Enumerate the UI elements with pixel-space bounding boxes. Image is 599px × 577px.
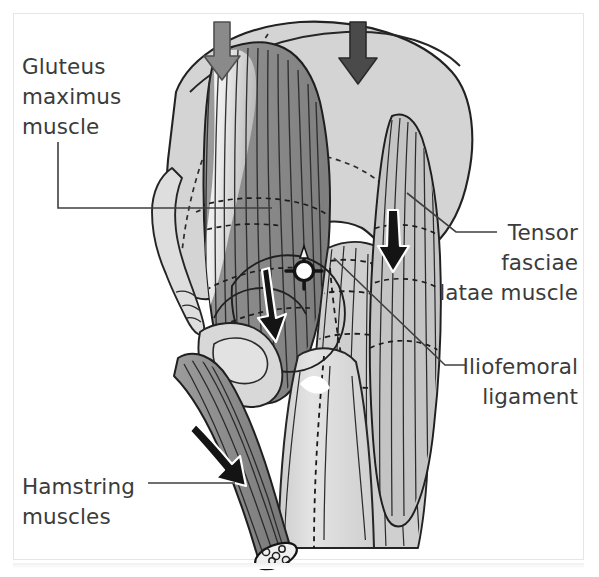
label-iliofemoral-ligament: Iliofemoral ligament [463,352,578,412]
label-hamstring-muscles: Hamstring muscles [22,472,135,532]
figure-canvas: Gluteus maximus muscle Tensor fasciae la… [0,0,599,577]
label-gluteus-maximus-muscle: Gluteus maximus muscle [22,52,121,142]
joint-center-dot [295,262,314,281]
scan-edge-artifact [13,563,584,569]
label-tensor-fasciae-latae-muscle: Tensor fasciae latae muscle [439,218,578,308]
